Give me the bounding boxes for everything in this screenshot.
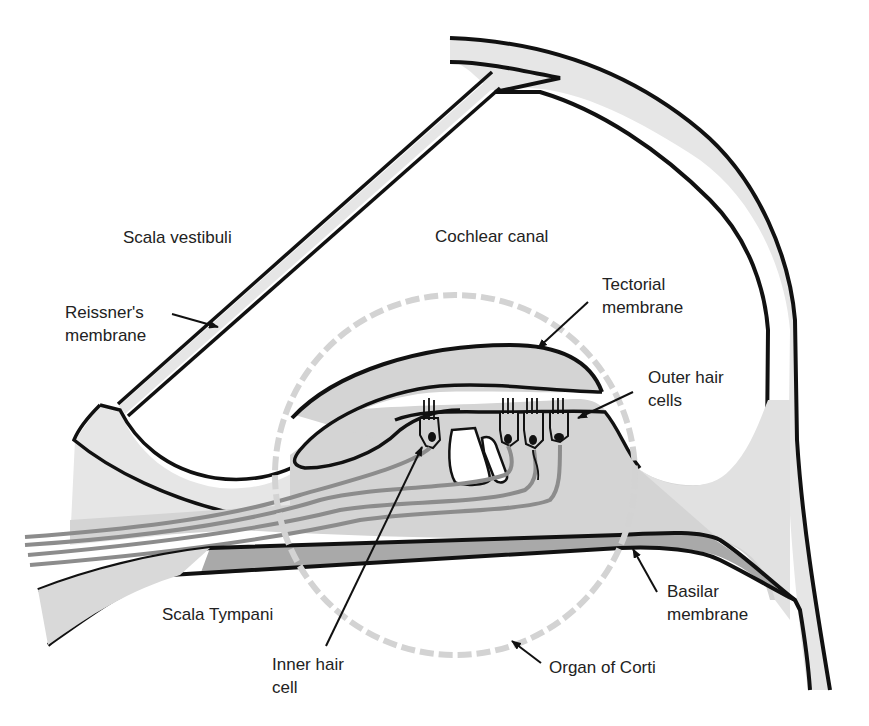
label-reissners-membrane: Reissner's membrane [65, 301, 146, 347]
label-basilar-membrane: Basilar membrane [667, 580, 748, 626]
label-outer-hair-line1: Outer hair [648, 366, 724, 389]
label-outer-hair-cells: Outer hair cells [648, 366, 724, 412]
label-scala-vestibuli: Scala vestibuli [123, 226, 232, 249]
label-scala-tympani: Scala Tympani [162, 603, 273, 626]
label-tectorial-line1: Tectorial [602, 273, 683, 296]
label-cochlear-canal: Cochlear canal [435, 225, 548, 248]
label-tectorial-line2: membrane [602, 296, 683, 319]
label-reissners-line2: membrane [65, 324, 146, 347]
arrow-basilar-membrane [633, 549, 657, 592]
label-reissners-line1: Reissner's [65, 301, 146, 324]
label-tectorial-membrane: Tectorial membrane [602, 273, 683, 319]
label-inner-hair-line1: Inner hair [272, 653, 344, 676]
label-basilar-line2: membrane [667, 603, 748, 626]
arrow-tectorial-membrane [538, 302, 588, 348]
label-inner-hair-line2: cell [272, 676, 344, 699]
label-organ-of-corti: Organ of Corti [549, 656, 656, 679]
label-outer-hair-line2: cells [648, 389, 724, 412]
label-inner-hair-cell: Inner hair cell [272, 653, 344, 699]
label-basilar-line1: Basilar [667, 580, 748, 603]
arrow-organ-of-corti [512, 641, 541, 663]
